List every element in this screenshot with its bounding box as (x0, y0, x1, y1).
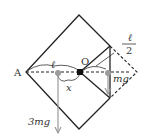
label-x: x (66, 82, 72, 93)
label-o: O (81, 56, 89, 67)
lever-diagram: O A ℓ x ℓ 2 mg 3mg (0, 0, 148, 139)
brace-x (57, 74, 80, 81)
label-3mg: 3mg (28, 116, 50, 127)
label-a: A (13, 67, 22, 78)
label-mg: mg (113, 73, 129, 84)
label-half-num: ℓ (128, 32, 132, 43)
label-half-den: 2 (126, 45, 132, 56)
pivot-o (77, 69, 83, 75)
label-l: ℓ (51, 59, 55, 70)
cut-edge-lower (80, 72, 110, 98)
